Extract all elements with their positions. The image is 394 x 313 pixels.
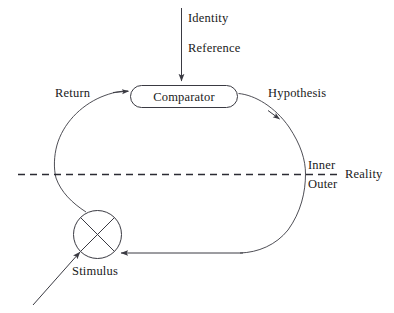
external-stimulus-arrow [33, 252, 80, 305]
stimulus-label: Stimulus [72, 265, 118, 278]
outer-label: Outer [308, 178, 337, 191]
diagram-canvas: Comparator Identity Reference Return Hyp… [0, 0, 394, 313]
return-path [54, 91, 128, 212]
comparator-label: Comparator [153, 90, 215, 104]
inner-label: Inner [308, 159, 335, 172]
return-label: Return [55, 87, 90, 100]
hypothesis-path [239, 94, 306, 254]
hypothesis-arrowhead [268, 111, 280, 120]
reference-label: Reference [188, 42, 240, 55]
return-arrowhead [113, 91, 129, 92]
reality-label: Reality [345, 168, 383, 181]
identity-label: Identity [188, 12, 228, 25]
hypothesis-label: Hypothesis [268, 87, 326, 100]
